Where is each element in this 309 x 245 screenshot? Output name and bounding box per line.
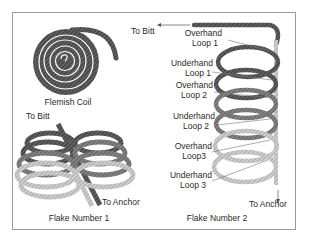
loop-label-underhand-2: Underhand Loop 2 (160, 111, 215, 131)
loop-label-overhand-2: Overhand Loop 2 (158, 80, 213, 100)
flake1-to-anchor-label: To Anchor (102, 197, 140, 207)
flake2-to-anchor-label: To Anchor (249, 199, 287, 209)
flemish-coil-icon (33, 29, 116, 95)
flake1-to-bitt-label: To Bitt (26, 111, 50, 121)
flake1-caption: Flake Number 1 (46, 213, 112, 223)
to-bitt-arrow-icon (157, 23, 190, 27)
flake-number-1-icon (17, 124, 133, 206)
flake2-caption: Flake Number 2 (182, 213, 252, 223)
loop-label-underhand-3: Underhand Loop 3 (158, 170, 212, 190)
flake2-to-bitt-label: To Bitt (131, 26, 155, 36)
flemish-coil-caption: Flemish Coil (40, 97, 96, 107)
loop-label-overhand-3: Overhand Loop3 (160, 141, 212, 161)
loop-label-underhand-1: Underhand Loop 1 (158, 58, 213, 78)
loop-label-overhand-1: Overhand Loop 1 (162, 28, 222, 48)
